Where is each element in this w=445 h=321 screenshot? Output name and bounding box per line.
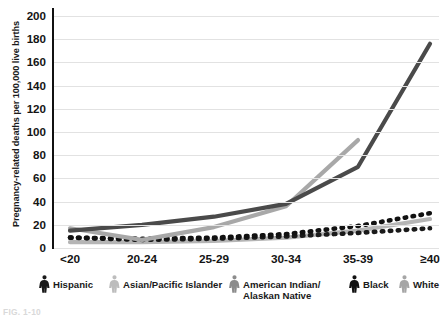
chart-figure: Pregnancy-related deaths per 100,000 liv… bbox=[0, 0, 445, 321]
legend-label: Black bbox=[363, 274, 389, 290]
x-axis-tick-label: 35-39 bbox=[343, 252, 373, 266]
gridline bbox=[52, 16, 439, 17]
gridline bbox=[52, 39, 439, 40]
plot-area bbox=[52, 8, 439, 248]
legend-item[interactable]: Asian/Pacific Islander bbox=[108, 274, 222, 296]
x-axis-tick-labels: <2020-2425-2930-3435-39≥40 bbox=[52, 252, 439, 272]
legend-label: American Indian/ Alaskan Native bbox=[243, 274, 331, 301]
gridline bbox=[52, 86, 439, 87]
x-axis-tick-label: <20 bbox=[60, 252, 80, 266]
female-figure-icon bbox=[348, 274, 361, 296]
gridline bbox=[52, 132, 439, 133]
y-axis-tick-label: 20 bbox=[10, 219, 46, 231]
y-axis-tick-label: 80 bbox=[10, 149, 46, 161]
legend-label: White bbox=[413, 274, 439, 290]
gridline bbox=[52, 155, 439, 156]
legend-item[interactable]: Hispanic bbox=[38, 274, 93, 296]
legend-item[interactable]: Black bbox=[348, 274, 389, 296]
legend-label: Asian/Pacific Islander bbox=[123, 274, 222, 290]
gridline bbox=[52, 202, 439, 203]
y-axis-tick-label: 140 bbox=[10, 80, 46, 92]
x-axis-tick-label: 25-29 bbox=[199, 252, 229, 266]
series-lines bbox=[52, 8, 439, 249]
y-axis-line bbox=[52, 8, 54, 249]
y-axis-tick-label: 0 bbox=[10, 242, 46, 254]
female-figure-icon bbox=[228, 274, 241, 296]
gridline bbox=[52, 109, 439, 110]
y-axis-tick-label: 120 bbox=[10, 103, 46, 115]
chart-legend: HispanicAsian/Pacific IslanderAmerican I… bbox=[0, 274, 445, 314]
y-axis-tick-label: 60 bbox=[10, 172, 46, 184]
y-axis-tick-label: 200 bbox=[10, 10, 46, 22]
gridline bbox=[52, 225, 439, 226]
legend-label: Hispanic bbox=[53, 274, 93, 290]
x-axis-tick-label: 20-24 bbox=[127, 252, 157, 266]
y-axis-tick-label: 160 bbox=[10, 56, 46, 68]
female-figure-icon bbox=[38, 274, 51, 296]
figure-caption: FIG. 1-10 bbox=[3, 307, 41, 317]
female-figure-icon bbox=[398, 274, 411, 296]
y-axis-tick-label: 40 bbox=[10, 196, 46, 208]
gridline bbox=[52, 178, 439, 179]
legend-item[interactable]: White bbox=[398, 274, 439, 296]
legend-item[interactable]: American Indian/ Alaskan Native bbox=[228, 274, 331, 301]
x-axis-tick-label: 30-34 bbox=[271, 252, 301, 266]
x-axis-tick-label: ≥40 bbox=[420, 252, 440, 266]
y-axis-tick-label: 100 bbox=[10, 126, 46, 138]
gridline bbox=[52, 62, 439, 63]
female-figure-icon bbox=[108, 274, 121, 296]
gridline bbox=[52, 248, 439, 249]
y-axis-tick-label: 180 bbox=[10, 33, 46, 45]
